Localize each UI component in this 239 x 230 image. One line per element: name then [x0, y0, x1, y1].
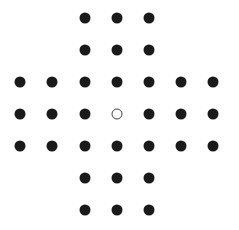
peg[interactable]	[80, 173, 91, 184]
peg[interactable]	[80, 205, 91, 216]
peg[interactable]	[176, 141, 187, 152]
peg[interactable]	[47, 77, 58, 88]
peg[interactable]	[112, 173, 123, 184]
peg[interactable]	[80, 13, 91, 24]
peg[interactable]	[112, 13, 123, 24]
peg[interactable]	[80, 109, 91, 120]
peg[interactable]	[80, 77, 91, 88]
peg[interactable]	[208, 109, 219, 120]
peg-solitaire-board	[0, 0, 239, 230]
peg[interactable]	[144, 109, 155, 120]
peg[interactable]	[176, 77, 187, 88]
peg[interactable]	[144, 77, 155, 88]
peg[interactable]	[47, 141, 58, 152]
peg[interactable]	[144, 205, 155, 216]
peg[interactable]	[176, 109, 187, 120]
peg[interactable]	[15, 141, 26, 152]
peg[interactable]	[112, 45, 123, 56]
peg[interactable]	[80, 45, 91, 56]
peg[interactable]	[144, 45, 155, 56]
peg[interactable]	[112, 141, 123, 152]
peg[interactable]	[144, 141, 155, 152]
peg[interactable]	[144, 13, 155, 24]
peg[interactable]	[112, 205, 123, 216]
peg[interactable]	[208, 141, 219, 152]
peg[interactable]	[208, 77, 219, 88]
peg[interactable]	[15, 77, 26, 88]
empty-hole[interactable]	[112, 109, 123, 120]
peg[interactable]	[15, 109, 26, 120]
peg[interactable]	[144, 173, 155, 184]
peg[interactable]	[47, 109, 58, 120]
peg[interactable]	[80, 141, 91, 152]
peg[interactable]	[112, 77, 123, 88]
